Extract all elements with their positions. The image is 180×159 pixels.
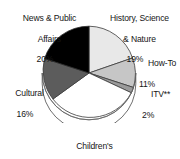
slice-label-news-line2: Affairs: [38, 34, 61, 44]
slice-label-news-line1: News & Public: [23, 13, 76, 23]
slice-label-history-line2: & Nature: [123, 34, 156, 44]
slice-label-children-line1: Children's: [76, 141, 112, 151]
slice-label-childrens: Children's 32%: [54, 131, 126, 159]
slice-label-itv-line1: ITV**: [151, 89, 170, 99]
slice-value-itv: 2%: [142, 110, 180, 120]
slice-label-cultural-line1: Cultural: [15, 88, 43, 98]
slice-label-howto-line1: How-To: [148, 58, 176, 68]
slice-label-itv: ITV** 2%: [142, 79, 180, 140]
slice-label-news-public-affairs: News & Public Affairs 20%: [2, 3, 88, 85]
pie-chart: News & Public Affairs 20% History, Scien…: [0, 0, 180, 159]
slice-label-history-line1: History, Science: [110, 13, 169, 23]
slice-value-news-public-affairs: 20%: [2, 54, 88, 64]
slice-label-cultural: Cultural 16%: [2, 78, 48, 139]
slice-value-cultural: 16%: [2, 109, 48, 119]
